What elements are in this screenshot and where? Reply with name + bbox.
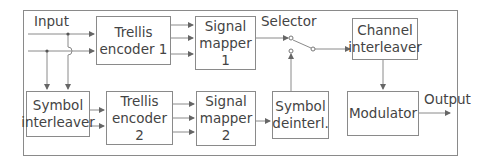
block-diagram: Input Selector Output Trellis encoder 1 … xyxy=(0,0,490,163)
modulator-block: Modulator xyxy=(347,91,419,136)
trellis-encoder-2-block: Trellis encoder 2 xyxy=(106,91,173,145)
output-label: Output xyxy=(424,91,471,107)
block-label-line2: deinterl. xyxy=(272,115,328,132)
selector-label: Selector xyxy=(261,13,316,29)
block-label-line2: mapper 2 xyxy=(197,110,255,144)
block-label-line1: Trellis xyxy=(120,93,158,110)
symbol-deinterleaver-block: Symbol deinterl. xyxy=(272,91,329,139)
block-label-line1: Symbol xyxy=(33,97,83,114)
block-label-line1: Trellis xyxy=(114,24,152,41)
block-label-line1: Channel xyxy=(357,22,412,39)
signal-mapper-2-block: Signal mapper 2 xyxy=(196,91,256,146)
signal-mapper-1-block: Signal mapper 1 xyxy=(195,16,256,70)
block-label-line2: interleaver xyxy=(21,114,95,131)
selector-contact-1 xyxy=(289,36,293,40)
block-label-line2: interleaver xyxy=(348,39,422,56)
block-label-line1: Signal xyxy=(205,18,246,35)
block-label-line2: encoder 2 xyxy=(107,110,172,144)
selector-contact-2 xyxy=(289,49,293,53)
block-label-line2: encoder 1 xyxy=(100,41,168,58)
block-label-line1: Modulator xyxy=(349,105,417,122)
block-label-line1: Symbol xyxy=(275,98,325,115)
block-label-line2: mapper 1 xyxy=(196,35,255,69)
trellis-encoder-1-block: Trellis encoder 1 xyxy=(96,16,171,65)
selector-pivot xyxy=(311,47,315,51)
block-label-line1: Signal xyxy=(205,93,246,110)
channel-interleaver-block: Channel interleaver xyxy=(352,18,418,60)
input-label: Input xyxy=(34,13,69,29)
symbol-interleaver-block: Symbol interleaver xyxy=(26,91,90,137)
